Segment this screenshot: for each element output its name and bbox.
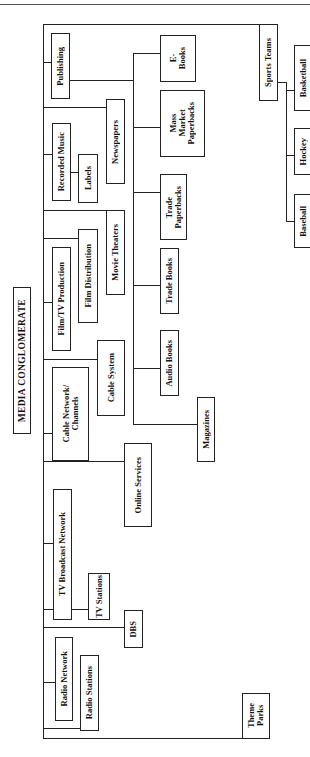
node-cable-network: Cable Network/ Channels xyxy=(52,367,89,461)
node-label: E- Books xyxy=(169,47,187,69)
node-trade-books: Trade Books xyxy=(160,248,179,314)
node-mass-market-paperbacks: Mass Market Paperbacks xyxy=(160,90,205,157)
connector-radio-stations xyxy=(43,728,80,729)
node-label: Baseball xyxy=(299,206,308,237)
node-film-tv-production: Film/TV Production xyxy=(52,247,71,351)
node-recorded-music: Recorded Music xyxy=(52,123,71,201)
sports-spine xyxy=(286,82,287,222)
node-labels: Labels xyxy=(78,154,98,203)
root-node: MEDIA CONGLOMERATE xyxy=(13,287,31,434)
node-radio-stations: Radio Stations xyxy=(80,655,99,731)
books-spine xyxy=(133,53,134,425)
connector-audio-books xyxy=(133,368,160,369)
node-label: DBS xyxy=(129,621,138,638)
node-label: TV Stations xyxy=(95,575,104,618)
node-movie-theaters: Movie Theaters xyxy=(106,210,125,295)
node-label: Magazines xyxy=(202,410,211,449)
node-label: Online Services xyxy=(134,457,143,513)
node-label: Cable Network/ Channels xyxy=(62,385,80,442)
top-connector xyxy=(43,24,260,25)
node-label: Trade Paperbacks xyxy=(165,186,183,229)
connector-hockey xyxy=(286,155,294,156)
node-label: Radio Stations xyxy=(85,666,94,719)
connector-tv-broadcast xyxy=(43,543,53,544)
connector-trade-paperbacks xyxy=(133,192,160,193)
root-label: MEDIA CONGLOMERATE xyxy=(18,299,27,422)
node-label: Movie Theaters xyxy=(111,224,120,281)
header-rule xyxy=(0,4,310,5)
connector-recorded-music xyxy=(43,154,52,155)
node-ebooks: E- Books xyxy=(160,35,196,82)
node-label: Labels xyxy=(84,166,93,190)
node-baseball: Baseball xyxy=(294,194,310,248)
node-theme-parks: Theme Parks xyxy=(242,693,270,739)
connector-mass-market xyxy=(133,127,160,128)
node-label: Sports Teams xyxy=(264,38,273,87)
connector-film-tv xyxy=(43,302,52,303)
node-label: Theme Parks xyxy=(247,703,265,728)
node-cable-system: Cable System xyxy=(97,340,125,416)
node-label: Newspapers xyxy=(111,120,120,164)
node-label: Basketball xyxy=(299,59,308,97)
node-sports-teams: Sports Teams xyxy=(259,24,278,101)
node-online-services: Online Services xyxy=(124,443,152,527)
connector-cable-network xyxy=(43,433,52,434)
connector-radio-network xyxy=(43,682,55,683)
node-publishing: Publishing xyxy=(51,33,70,99)
main-spine xyxy=(43,24,44,739)
node-newspapers: Newspapers xyxy=(106,99,125,184)
connector-ebooks xyxy=(133,53,160,54)
connector-dbs xyxy=(43,627,124,628)
connector-cable-system xyxy=(43,359,97,360)
connector-trade-books xyxy=(133,285,160,286)
node-audio-books: Audio Books xyxy=(160,330,179,396)
node-label: Film/TV Production xyxy=(57,262,66,336)
node-label: Mass Market Paperbacks xyxy=(169,102,196,145)
connector-film-distribution xyxy=(43,238,79,239)
node-label: Recorded Music xyxy=(57,132,66,191)
node-label: Film Distribution xyxy=(84,244,93,308)
node-trade-paperbacks: Trade Paperbacks xyxy=(160,174,187,240)
node-label: Publishing xyxy=(56,47,65,86)
connector-baseball xyxy=(286,221,294,222)
node-radio-network: Radio Network xyxy=(55,637,73,721)
bottom-connector xyxy=(43,738,243,739)
connector-movie-theaters xyxy=(43,210,106,211)
node-label: Radio Network xyxy=(60,651,69,706)
node-magazines: Magazines xyxy=(197,397,215,462)
node-tv-stations: TV Stations xyxy=(88,573,110,620)
connector-magazines xyxy=(133,424,197,425)
node-tv-broadcast-network: TV Broadcast Network xyxy=(53,489,72,620)
connector-online-services xyxy=(43,461,124,462)
node-label: Trade Books xyxy=(165,258,174,304)
node-label: Cable System xyxy=(107,353,116,402)
node-label: Audio Books xyxy=(165,340,174,387)
connector-publishing-books xyxy=(69,80,133,81)
node-dbs: DBS xyxy=(124,610,143,648)
node-hockey: Hockey xyxy=(294,128,310,175)
node-label: Hockey xyxy=(299,138,308,165)
node-film-distribution: Film Distribution xyxy=(78,229,98,323)
connector-sports-branch xyxy=(277,82,286,83)
connector-newspapers xyxy=(43,107,106,108)
node-label: TV Broadcast Network xyxy=(58,512,67,596)
connector-basketball xyxy=(286,90,294,91)
node-basketball: Basketball xyxy=(294,45,310,111)
